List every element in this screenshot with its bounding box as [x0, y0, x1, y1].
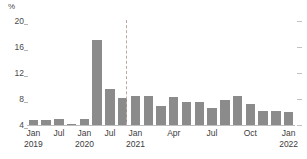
- y-axis-tick-16: 16: [4, 43, 24, 52]
- x-axis-tick-year: 2021: [126, 139, 145, 150]
- bar: [258, 111, 267, 125]
- y-axis-tick-mark-8: [24, 102, 28, 103]
- bar: [131, 96, 140, 125]
- x-axis-tick-year: 2020: [75, 139, 94, 150]
- x-axis-tick-year: 2019: [24, 139, 43, 150]
- x-axis-tick-month: Jul: [207, 128, 218, 138]
- y-axis-tick-mark-right-12: [297, 73, 302, 74]
- bar: [67, 124, 76, 125]
- x-axis-tick-Apr: Apr: [167, 128, 180, 139]
- y-axis-tick-20: 20: [4, 17, 24, 26]
- x-axis-tick-Jul: Jul: [105, 128, 116, 139]
- x-axis-tick-Jan-2022: Jan2022: [279, 128, 298, 150]
- bar: [195, 102, 204, 125]
- x-axis-tick-Jul: Jul: [53, 128, 64, 139]
- bar: [156, 106, 165, 125]
- y-axis-tick-mark-right-16: [297, 47, 302, 48]
- x-axis-tick-Oct: Oct: [244, 128, 257, 139]
- bar: [29, 120, 38, 125]
- y-axis-tick-8: 8: [4, 95, 24, 104]
- x-axis-tick-month: Oct: [244, 128, 257, 138]
- x-axis-tick-month: Apr: [167, 128, 180, 138]
- x-axis-tick-month: Jan: [129, 128, 143, 138]
- y-axis-tick-12: 12: [4, 69, 24, 78]
- x-axis-tick-Jan-2019: Jan2019: [24, 128, 43, 150]
- bar: [41, 120, 50, 125]
- y-axis-tick-mark-right-8: [297, 99, 302, 100]
- bar: [207, 108, 216, 125]
- plot-area: [27, 16, 295, 125]
- bar: [271, 111, 280, 125]
- y-axis-tick-mark-20: [24, 24, 28, 25]
- x-axis-tick-year: 2022: [279, 139, 298, 150]
- x-axis-tick-labels: Jan2019JulJan2020JulJan2021AprJulOctJan2…: [0, 128, 307, 159]
- bar: [105, 89, 114, 125]
- bar: [233, 96, 242, 125]
- x-axis-tick-Jan-2021: Jan2021: [126, 128, 145, 150]
- bar: [144, 96, 153, 125]
- y-axis-tick-mark-4: [24, 128, 28, 129]
- bar: [54, 119, 63, 126]
- period-divider-line: [126, 20, 127, 125]
- y-axis-tick-mark-right-20: [297, 21, 302, 22]
- bar: [80, 119, 89, 126]
- x-axis-tick-Jul: Jul: [207, 128, 218, 139]
- x-axis-baseline: [27, 125, 295, 126]
- x-axis-tick-month: Jan: [78, 128, 92, 138]
- x-axis-tick-Jan-2020: Jan2020: [75, 128, 94, 150]
- y-axis-tick-mark-16: [24, 50, 28, 51]
- bar: [284, 112, 293, 125]
- y-axis-tick-mark-12: [24, 76, 28, 77]
- y-axis-tick-mark-right-4: [297, 125, 302, 126]
- x-axis-tick-month: Jan: [282, 128, 296, 138]
- x-axis-tick-month: Jul: [105, 128, 116, 138]
- x-axis-tick-month: Jan: [27, 128, 41, 138]
- x-axis-tick-month: Jul: [53, 128, 64, 138]
- bar: [169, 97, 178, 125]
- bar: [220, 100, 229, 125]
- bar-chart: % 48121620 Jan2019JulJan2020JulJan2021Ap…: [0, 0, 307, 159]
- bar: [92, 40, 101, 125]
- bar: [182, 102, 191, 125]
- bar: [246, 104, 255, 125]
